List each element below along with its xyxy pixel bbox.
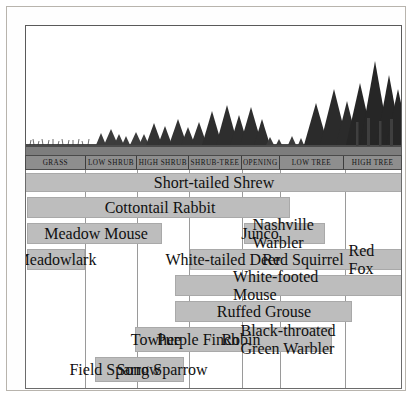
species-label: Black-throated Green Warbler xyxy=(241,322,348,358)
zone-header-row: GRASSLOW SHRUBHIGH SHRUBSHRUB-TREEOPENIN… xyxy=(25,155,402,170)
species-label: Short-tailed Shrew xyxy=(154,174,274,192)
forest-succession-illustration xyxy=(25,25,402,155)
zone-header-cell: SHRUB-TREE xyxy=(189,156,242,169)
species-label: Meadow Mouse xyxy=(44,225,148,243)
species-label: Ruffed Grouse xyxy=(217,303,311,321)
species-label: Red Fox xyxy=(349,242,384,278)
species-label: Song Sparrow xyxy=(116,361,207,379)
forest-profile-svg xyxy=(26,26,401,155)
species-label: Nashville Warbler xyxy=(253,216,352,252)
zone-header-cell: HIGH TREE xyxy=(344,156,401,169)
zone-header-cell: LOW TREE xyxy=(280,156,345,169)
species-label: Red Squirrel xyxy=(262,251,343,269)
zone-header-cell: HIGH SHRUB xyxy=(137,156,189,169)
species-label: White-footed Mouse xyxy=(233,268,345,304)
figure-page: GRASSLOW SHRUBHIGH SHRUBSHRUB-TREEOPENIN… xyxy=(0,0,412,397)
figure-frame: GRASSLOW SHRUBHIGH SHRUBSHRUB-TREEOPENIN… xyxy=(6,6,406,391)
species-matrix: Short-tailed ShrewCottontail RabbitMeado… xyxy=(25,170,402,389)
zone-header-cell: GRASS xyxy=(26,156,86,169)
zone-header-cell: OPENING xyxy=(242,156,280,169)
species-label: Meadowlark xyxy=(25,251,96,269)
ground-line xyxy=(26,144,401,155)
species-label: Cottontail Rabbit xyxy=(105,199,216,217)
zone-header-cell: LOW SHRUB xyxy=(86,156,138,169)
